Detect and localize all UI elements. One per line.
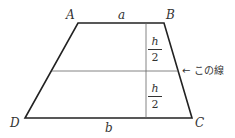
fraction-bar xyxy=(148,49,162,50)
top-side-label: a xyxy=(118,9,125,21)
fraction-denominator: 2 xyxy=(148,99,162,110)
trapezoid-outline xyxy=(25,23,192,118)
vertex-b-label: B xyxy=(166,9,175,21)
fraction-numerator: h xyxy=(148,83,162,94)
fraction-bar xyxy=(148,96,162,97)
vertex-a-label: A xyxy=(66,9,75,21)
fraction-numerator: h xyxy=(148,36,162,47)
vertex-c-label: C xyxy=(195,117,204,129)
bottom-side-label: b xyxy=(105,122,113,134)
upper-half-height: h 2 xyxy=(148,36,162,63)
vertex-d-label: D xyxy=(10,117,20,129)
midline-annotation: ← この線 xyxy=(182,66,224,76)
lower-half-height: h 2 xyxy=(148,83,162,110)
fraction-denominator: 2 xyxy=(148,52,162,63)
